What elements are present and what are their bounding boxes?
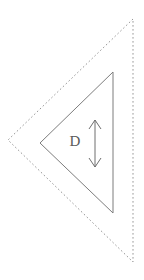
diagram-canvas: D [0,0,144,280]
dimension-label-d: D [67,132,83,150]
dimension-arrow-group [89,120,101,167]
